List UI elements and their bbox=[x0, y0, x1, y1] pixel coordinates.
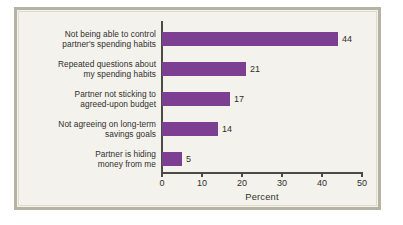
x-tick-40 bbox=[321, 173, 323, 177]
x-tick-label-20: 20 bbox=[231, 178, 253, 188]
bar-value-1: 21 bbox=[250, 62, 260, 76]
category-label-1-line-2: my spending habits bbox=[30, 70, 156, 80]
bar-value-3: 14 bbox=[222, 122, 232, 136]
x-tick-label-40: 40 bbox=[311, 178, 333, 188]
x-axis-line bbox=[161, 172, 363, 174]
category-label-4: Partner is hiding money from me bbox=[30, 150, 158, 169]
x-tick-label-30: 30 bbox=[271, 178, 293, 188]
x-tick-20 bbox=[241, 173, 243, 177]
bar-1 bbox=[162, 62, 246, 76]
x-tick-10 bbox=[201, 173, 203, 177]
bar-value-0: 44 bbox=[342, 32, 352, 46]
x-tick-30 bbox=[281, 173, 283, 177]
bar-3 bbox=[162, 122, 218, 136]
bar-value-4: 5 bbox=[186, 152, 191, 166]
bar-0 bbox=[162, 32, 338, 46]
category-label-3-line-2: savings goals bbox=[30, 130, 156, 140]
chart-figure: 0 10 20 30 40 50 Not being able to contr… bbox=[0, 0, 403, 225]
bar-value-2: 17 bbox=[234, 92, 244, 106]
category-label-3: Not agreeing on long-term savings goals bbox=[30, 120, 158, 139]
category-label-4-line-2: money from me bbox=[30, 160, 156, 170]
bar-2 bbox=[162, 92, 230, 106]
x-tick-0 bbox=[161, 173, 163, 177]
plot-area: 0 10 20 30 40 50 Not being able to contr… bbox=[0, 0, 403, 225]
x-tick-label-10: 10 bbox=[191, 178, 213, 188]
category-label-1: Repeated questions about my spending hab… bbox=[30, 60, 158, 79]
x-tick-label-50: 50 bbox=[351, 178, 373, 188]
category-label-2-line-2: agreed-upon budget bbox=[30, 100, 156, 110]
category-label-0-line-2: partner's spending habits bbox=[30, 40, 156, 50]
category-label-2: Partner not sticking to agreed-upon budg… bbox=[30, 90, 158, 109]
category-label-0: Not being able to control partner's spen… bbox=[30, 30, 158, 49]
x-axis-label: Percent bbox=[161, 192, 363, 202]
x-tick-label-0: 0 bbox=[151, 178, 173, 188]
x-tick-50 bbox=[361, 173, 363, 177]
bar-4 bbox=[162, 152, 182, 166]
